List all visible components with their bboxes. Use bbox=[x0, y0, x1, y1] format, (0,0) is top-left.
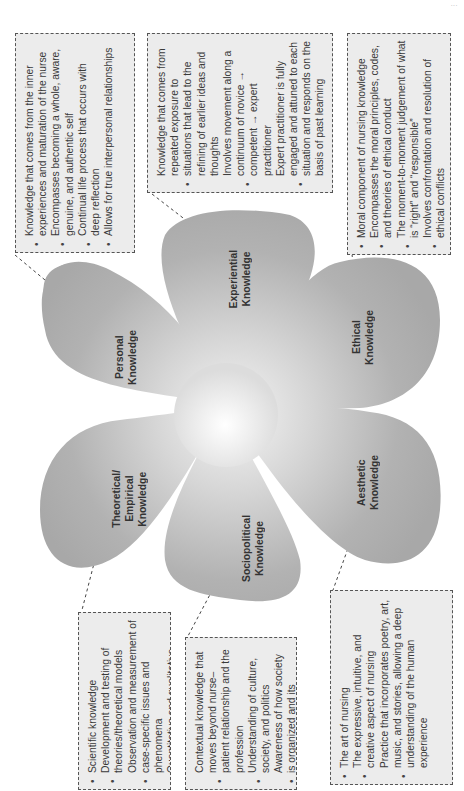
bullet: Knowledge that comes from repeated expos… bbox=[155, 40, 221, 186]
bullet: The expressive, intuitive, and creative … bbox=[351, 597, 377, 778]
bullet: Contextual knowledge that moves beyond n… bbox=[193, 644, 246, 783]
info-box-theoretical: Scientific knowledge Development and tes… bbox=[78, 612, 171, 790]
bullet: Encompasses the moral principles, codes,… bbox=[368, 40, 394, 248]
petal-label-personal: Personal Knowledge bbox=[113, 330, 139, 385]
flower-center bbox=[174, 363, 278, 467]
bullet: Expert practitioner is fully engaged and… bbox=[274, 40, 327, 186]
bullet: Involves confrontation and resolution of… bbox=[421, 40, 447, 248]
info-box-experiential: Knowledge that comes from repeated expos… bbox=[147, 33, 333, 193]
bullet: Quantitative and qualitative research bbox=[165, 619, 171, 783]
info-box-aesthetic: The art of nursing The expressive, intui… bbox=[330, 590, 453, 785]
bullet: The moment-to-moment judgement of what i… bbox=[395, 40, 421, 248]
bullet: Understanding of culture, society, and p… bbox=[246, 644, 272, 783]
petal-label-theoretical: Theoretical/ Empirical Knowledge bbox=[110, 470, 149, 528]
bullet: Observation and measurement of case-spec… bbox=[126, 619, 166, 783]
petal-label-sociopolitical: Sociopolitical Knowledge bbox=[240, 515, 266, 582]
bullet: The art of nursing bbox=[338, 597, 351, 778]
petal-label-aesthetic: Aesthetic Knowledge bbox=[355, 455, 381, 510]
bullet: Practice that incorporates poetry, art, … bbox=[378, 597, 431, 778]
bullet: Continual life process that occurs with … bbox=[76, 40, 102, 246]
bullet: Knowledge that comes from the inner expe… bbox=[23, 40, 49, 246]
bullet: Scientific knowledge bbox=[86, 619, 99, 783]
bullet: Awareness of how society is organized an… bbox=[272, 644, 297, 783]
info-box-ethical: Moral component of nursing knowledge Enc… bbox=[347, 33, 451, 255]
bullet: Allows for true interpersonal relationsh… bbox=[102, 40, 115, 246]
bullet: Involves movement along a continuum of n… bbox=[221, 40, 274, 186]
petal-label-ethical: Ethical Knowledge bbox=[350, 310, 376, 365]
info-box-sociopolitical: Contextual knowledge that moves beyond n… bbox=[185, 637, 297, 790]
bullet: Development and testing of theories/theo… bbox=[99, 619, 125, 783]
page-header: ... bbox=[451, 0, 458, 7]
bullet: Encompasses becoming a whole, aware, gen… bbox=[49, 40, 75, 246]
info-box-personal: Knowledge that comes from the inner expe… bbox=[15, 33, 135, 253]
bullet: Moral component of nursing knowledge bbox=[355, 40, 368, 248]
petal-label-experiential: Experiential Knowledge bbox=[227, 250, 253, 308]
